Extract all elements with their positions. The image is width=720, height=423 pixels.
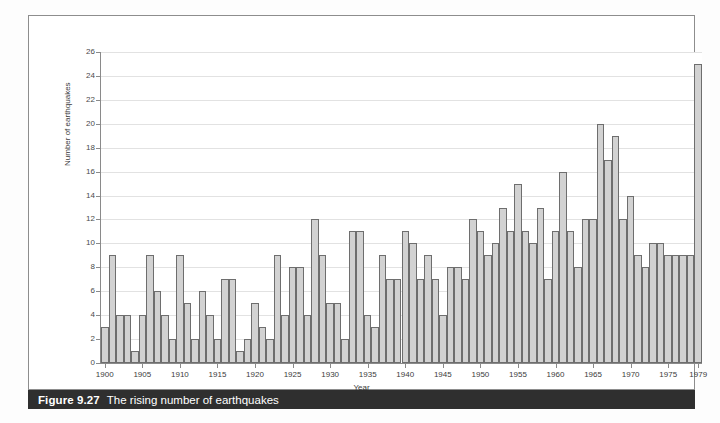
- bar: [597, 124, 605, 363]
- bar: [574, 267, 582, 363]
- bar: [176, 255, 184, 363]
- bar: [567, 231, 575, 363]
- bar: [326, 303, 334, 363]
- x-tick-label: 1935: [359, 370, 377, 379]
- bar: [206, 315, 214, 363]
- x-tick-label: 1970: [622, 370, 640, 379]
- bar: [386, 279, 394, 363]
- figure-caption-bar: Figure 9.27 The rising number of earthqu…: [28, 390, 695, 409]
- bar: [657, 243, 665, 363]
- bar: [101, 327, 109, 363]
- bar: [191, 339, 199, 363]
- y-tick-label: 0: [71, 359, 95, 367]
- x-tick-mark: [631, 363, 632, 368]
- caption-text: The rising number of earthquakes: [107, 394, 279, 406]
- y-tick-label: 16: [71, 168, 95, 176]
- bar: [679, 255, 687, 363]
- x-tick-mark: [556, 363, 557, 368]
- bar: [552, 231, 560, 363]
- y-tick-mark: [96, 243, 100, 244]
- x-axis-line: [100, 363, 702, 364]
- x-tick-mark: [405, 363, 406, 368]
- bar: [559, 172, 567, 363]
- x-tick-label: 1915: [209, 370, 227, 379]
- x-tick-mark: [142, 363, 143, 368]
- bar: [154, 291, 162, 363]
- x-tick-mark: [330, 363, 331, 368]
- bar: [161, 315, 169, 363]
- x-tick-mark: [368, 363, 369, 368]
- bar: [296, 267, 304, 363]
- x-tick-label: 1900: [96, 370, 114, 379]
- y-tick-mark: [96, 219, 100, 220]
- y-tick-mark: [96, 148, 100, 149]
- y-tick-label: 4: [71, 311, 95, 319]
- bar: [507, 231, 515, 363]
- gridline: [101, 100, 702, 101]
- y-tick-label: 2: [71, 335, 95, 343]
- bar: [529, 243, 537, 363]
- y-tick-label: 18: [71, 144, 95, 152]
- x-tick-mark: [255, 363, 256, 368]
- y-tick-label: 8: [71, 263, 95, 271]
- bar: [439, 315, 447, 363]
- y-tick-mark: [96, 267, 100, 268]
- bar: [462, 279, 470, 363]
- x-tick-label: 1940: [396, 370, 414, 379]
- bar: [432, 279, 440, 363]
- bar: [417, 279, 425, 363]
- bar: [311, 219, 319, 363]
- bar: [319, 255, 327, 363]
- bar: [139, 315, 147, 363]
- x-tick-label: 1925: [284, 370, 302, 379]
- bar: [146, 255, 154, 363]
- bar: [484, 255, 492, 363]
- bar: [687, 255, 695, 363]
- y-tick-label: 14: [71, 192, 95, 200]
- x-tick-mark: [518, 363, 519, 368]
- gridline: [101, 76, 702, 77]
- bar: [169, 339, 177, 363]
- y-tick-mark: [96, 291, 100, 292]
- bar: [642, 267, 650, 363]
- y-tick-mark: [96, 124, 100, 125]
- bar: [379, 255, 387, 363]
- bar: [349, 231, 357, 363]
- y-tick-label: 22: [71, 96, 95, 104]
- bar: [514, 184, 522, 363]
- bar: [304, 315, 312, 363]
- x-tick-label: 1965: [584, 370, 602, 379]
- y-tick-label: 24: [71, 72, 95, 80]
- gridline: [101, 124, 702, 125]
- x-tick-mark: [180, 363, 181, 368]
- y-tick-mark: [96, 196, 100, 197]
- bar: [589, 219, 597, 363]
- bar: [619, 219, 627, 363]
- bar: [341, 339, 349, 363]
- x-tick-mark: [105, 363, 106, 368]
- bar: [469, 219, 477, 363]
- bar: [604, 160, 612, 363]
- bar: [356, 231, 364, 363]
- x-tick-label: 1960: [547, 370, 565, 379]
- bar: [229, 279, 237, 363]
- x-tick-label: 1950: [471, 370, 489, 379]
- bar: [244, 339, 252, 363]
- y-tick-label: 20: [71, 120, 95, 128]
- x-tick-mark: [668, 363, 669, 368]
- bar: [251, 303, 259, 363]
- y-tick-label: 6: [71, 287, 95, 295]
- bar: [627, 196, 635, 363]
- bar: [612, 136, 620, 363]
- bar: [402, 231, 410, 363]
- bar: [259, 327, 267, 363]
- bar: [634, 255, 642, 363]
- plot-area: [101, 52, 702, 363]
- x-tick-label: 1979: [689, 370, 707, 379]
- bar: [334, 303, 342, 363]
- bar: [582, 219, 590, 363]
- y-tick-label: 10: [71, 239, 95, 247]
- x-tick-mark: [698, 363, 699, 368]
- bar: [394, 279, 402, 363]
- bar: [281, 315, 289, 363]
